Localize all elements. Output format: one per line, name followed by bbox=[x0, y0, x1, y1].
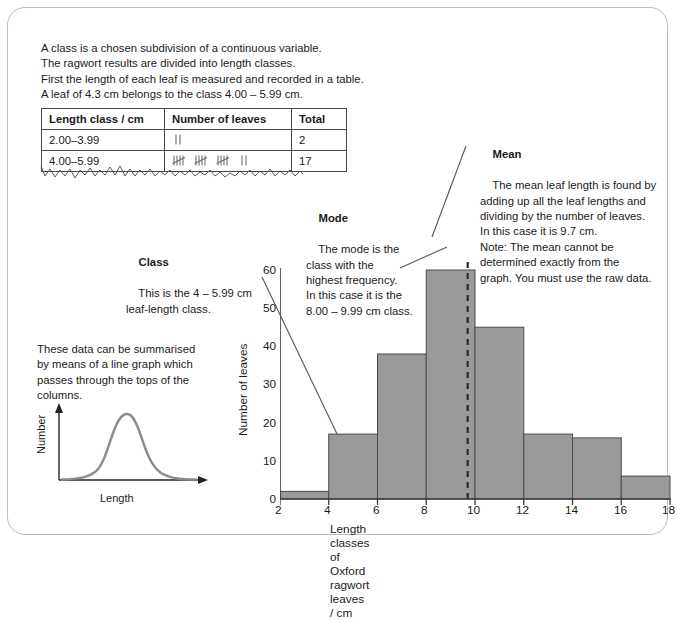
figure-frame: A class is a chosen subdivision of a con… bbox=[7, 7, 668, 535]
leader-line-mean bbox=[432, 146, 466, 237]
leader-line-class bbox=[262, 277, 337, 434]
leader-line-mode bbox=[400, 247, 447, 268]
